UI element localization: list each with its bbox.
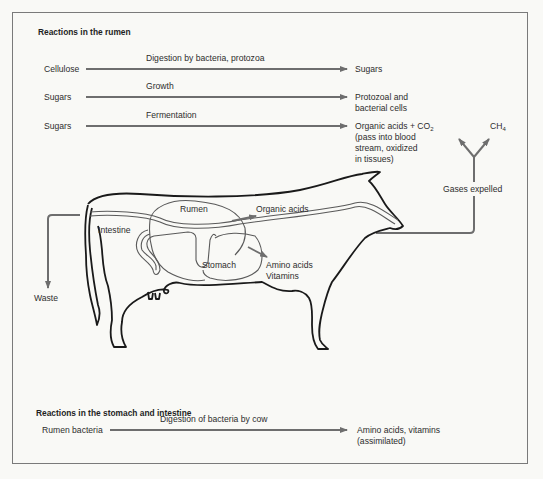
reaction-input-sugars-growth: Sugars (44, 92, 71, 102)
reaction-output-amino-acids-line2: (assimilated) (357, 436, 406, 446)
reaction-output-note-line3: in tissues) (355, 154, 394, 164)
reaction-process-digestion: Digestion by bacteria, protozoa (146, 53, 264, 63)
waste-arrow (48, 215, 80, 288)
gases-expelled-label: Gases expelled (443, 184, 502, 194)
reaction-output-amino-acids-line1: Amino acids, vitamins (357, 425, 440, 435)
reaction-input-rumen-bacteria: Rumen bacteria (42, 425, 103, 435)
cow-organs (90, 200, 398, 280)
organic-acids-label: Organic acids (256, 204, 309, 214)
reaction-process-growth: Growth (146, 81, 174, 91)
cow-outline (85, 172, 403, 349)
reaction-output-note-line1: (pass into blood (355, 132, 416, 142)
reaction-process-fermentation: Fermentation (146, 110, 197, 120)
reaction-process-digestion-by-cow: Digestion of bacteria by cow (160, 414, 267, 424)
intestine-label: Intestine (98, 225, 131, 235)
amino-acids-label: Amino acids (266, 260, 313, 270)
waste-label: Waste (34, 293, 58, 303)
stomach-label: Stomach (202, 260, 236, 270)
reaction-output-cells-line1: Protozoal and (355, 92, 408, 102)
reaction-output-sugars: Sugars (355, 64, 382, 74)
amino-acids-arrow (248, 247, 267, 257)
vitamins-label: Vitamins (266, 271, 299, 281)
rumen-label: Rumen (180, 204, 208, 214)
methane-label: CH4 (490, 121, 506, 131)
reaction-output-organic-acids-co2: Organic acids + CO2 (355, 121, 434, 131)
rumen-section-heading: Reactions in the rumen (38, 27, 131, 37)
reaction-input-cellulose: Cellulose (44, 64, 79, 74)
reaction-input-sugars-fermentation: Sugars (44, 121, 71, 131)
reaction-output-cells-line2: bacterial cells (355, 103, 407, 113)
reaction-arrows (86, 69, 347, 430)
reaction-output-note-line2: stream, oxidized (355, 143, 418, 153)
